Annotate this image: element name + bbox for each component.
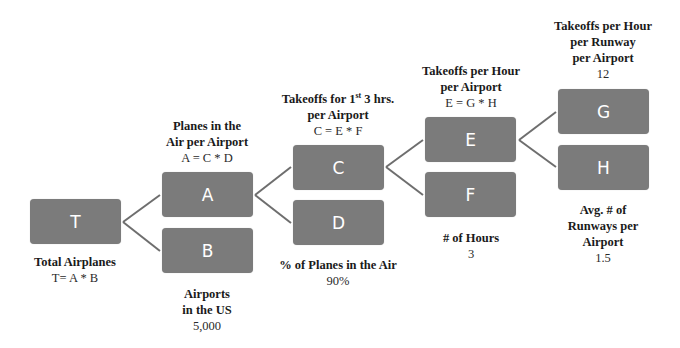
edge-e-g [519, 112, 556, 140]
node-d-title: % of Planes in the Air [263, 257, 413, 273]
node-t-title: Total Airplanes [0, 254, 150, 270]
node-g-value: 12 [528, 66, 678, 82]
node-e-title-line2: per Airport [396, 79, 546, 95]
node-t-box: T [30, 199, 121, 244]
driver-tree-diagram: T A B C D E F G H Total Airplanes T= A *… [0, 0, 680, 348]
edge-a-c [255, 167, 291, 195]
node-c-title-post: 3 hrs. [361, 92, 394, 106]
node-b-label: Airports in the US 5,000 [132, 286, 282, 334]
node-g-title-line1: Takeoffs per Hour [528, 18, 678, 34]
node-g-box: G [558, 89, 649, 134]
node-b-title-line1: Airports [132, 286, 282, 302]
node-e-box: E [425, 117, 516, 162]
node-a-formula: A = C * D [132, 150, 282, 166]
node-c-title-pre: Takeoffs for 1 [282, 92, 356, 106]
node-g-label: Takeoffs per Hour per Runway per Airport… [528, 18, 678, 82]
node-h-label: Avg. # of Runways per Airport 1.5 [528, 202, 678, 266]
edge-c-f [386, 167, 423, 195]
edge-t-a [123, 195, 160, 222]
node-d-label: % of Planes in the Air 90% [263, 257, 413, 289]
node-c-label: Takeoffs for 1st 3 hrs. per Airport C = … [263, 91, 413, 139]
node-g-title-line3: per Airport [528, 50, 678, 66]
node-c-formula: C = E * F [263, 123, 413, 139]
edge-a-d [255, 195, 291, 223]
node-a-box: A [162, 172, 253, 217]
node-b-box: B [162, 228, 253, 273]
node-h-title-line2: Runways per [528, 218, 678, 234]
node-a-title-line1: Planes in the [132, 118, 282, 134]
node-f-box: F [425, 172, 516, 217]
node-a-label: Planes in the Air per Airport A = C * D [132, 118, 282, 166]
node-b-value: 5,000 [132, 318, 282, 334]
node-f-value: 3 [396, 246, 546, 262]
edge-e-h [519, 140, 556, 167]
node-e-label: Takeoffs per Hour per Airport E = G * H [396, 63, 546, 111]
edge-t-b [123, 222, 160, 251]
node-g-title-line2: per Runway [528, 34, 678, 50]
node-t-label: Total Airplanes T= A * B [0, 254, 150, 286]
node-c-title-line1: Takeoffs for 1st 3 hrs. [263, 91, 413, 107]
node-f-title: # of Hours [396, 230, 546, 246]
node-h-title-line3: Airport [528, 234, 678, 250]
node-b-title-line2: in the US [132, 302, 282, 318]
node-f-label: # of Hours 3 [396, 230, 546, 262]
node-t-formula: T= A * B [0, 270, 150, 286]
node-h-box: H [558, 145, 649, 190]
node-a-title-line2: Air per Airport [132, 134, 282, 150]
node-e-formula: E = G * H [396, 95, 546, 111]
node-c-title-line2: per Airport [263, 107, 413, 123]
edge-c-e [386, 140, 423, 167]
node-h-title-line1: Avg. # of [528, 202, 678, 218]
node-h-value: 1.5 [528, 250, 678, 266]
node-d-box: D [293, 200, 384, 245]
node-c-box: C [293, 145, 384, 190]
node-d-value: 90% [263, 273, 413, 289]
node-e-title-line1: Takeoffs per Hour [396, 63, 546, 79]
